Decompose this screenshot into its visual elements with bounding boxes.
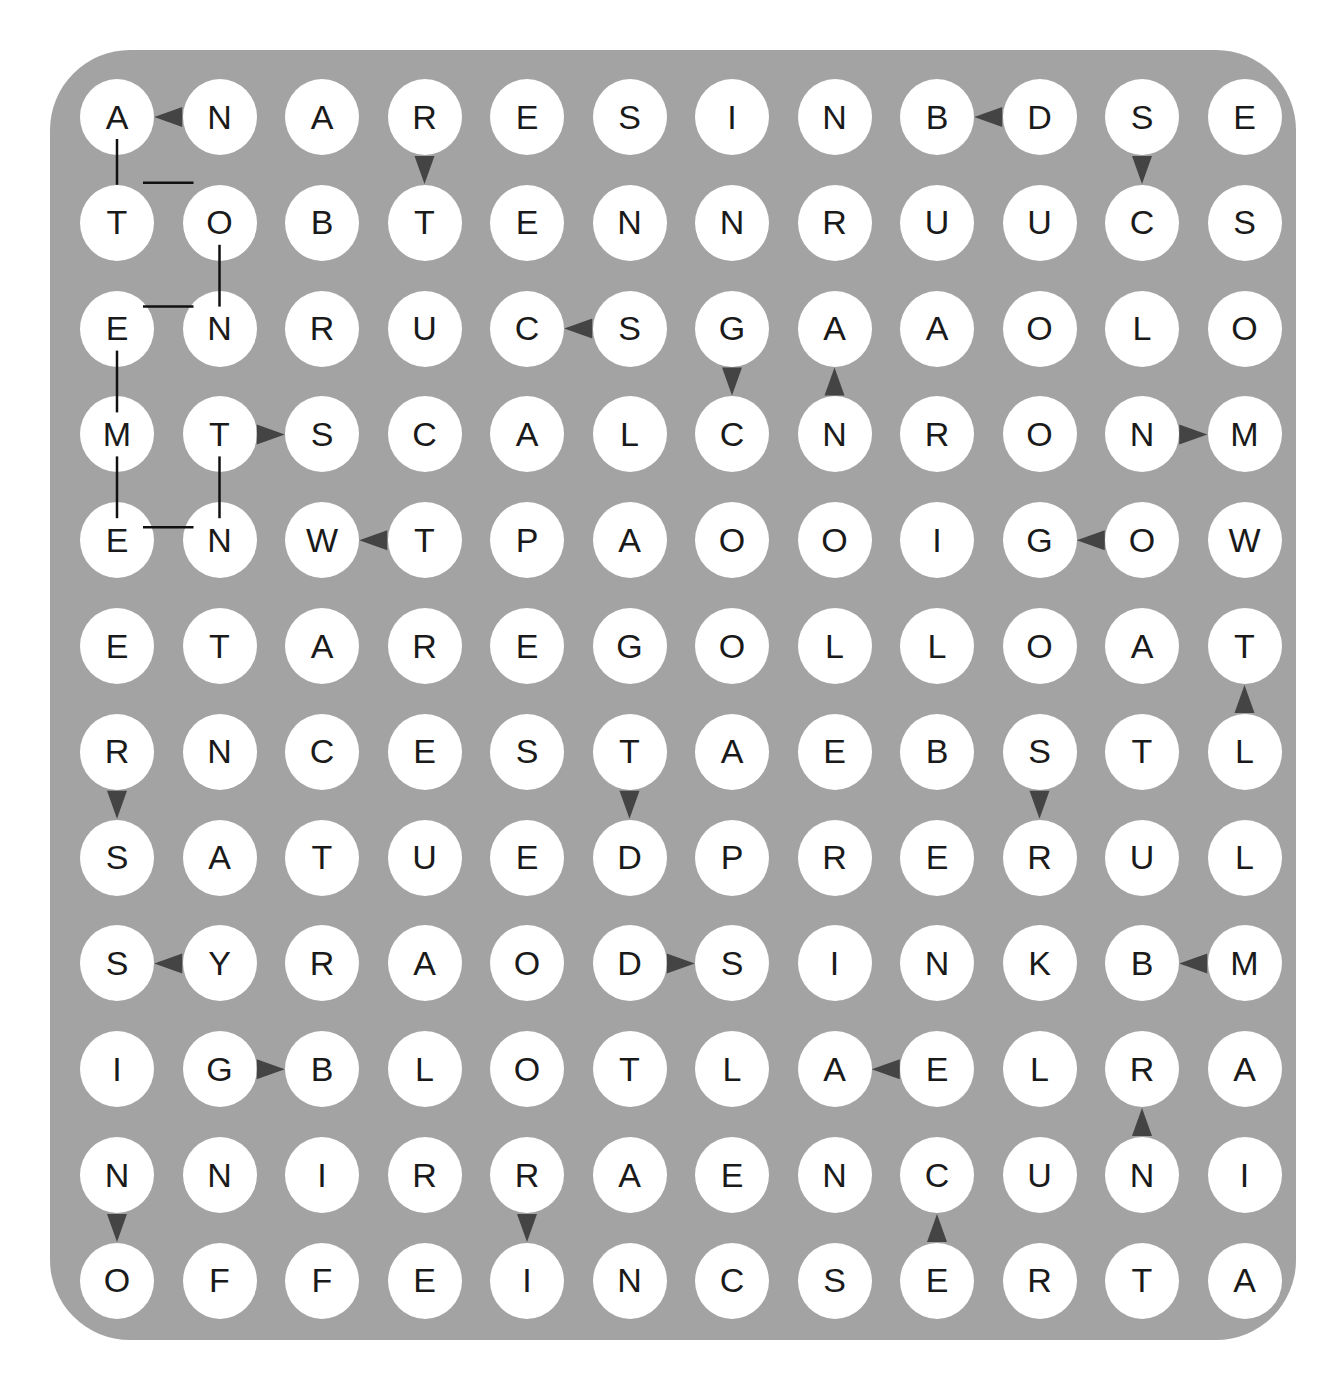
letter-cell[interactable]: N: [798, 1137, 872, 1213]
letter-cell[interactable]: O: [695, 502, 769, 578]
letter-cell[interactable]: C: [695, 396, 769, 472]
letter-cell[interactable]: F: [183, 1243, 257, 1319]
letter-cell[interactable]: L: [900, 608, 974, 684]
letter-cell[interactable]: E: [900, 820, 974, 896]
letter-cell[interactable]: S: [80, 820, 154, 896]
letter-cell[interactable]: E: [900, 1031, 974, 1107]
letter-cell[interactable]: A: [80, 79, 154, 155]
letter-cell[interactable]: O: [1208, 291, 1282, 367]
letter-cell[interactable]: C: [285, 714, 359, 790]
letter-cell[interactable]: T: [1105, 714, 1179, 790]
letter-cell[interactable]: C: [900, 1137, 974, 1213]
letter-cell[interactable]: A: [388, 925, 462, 1001]
letter-cell[interactable]: R: [285, 291, 359, 367]
letter-cell[interactable]: S: [593, 79, 667, 155]
letter-cell[interactable]: G: [1003, 502, 1077, 578]
letter-cell[interactable]: C: [388, 396, 462, 472]
letter-cell[interactable]: M: [1208, 925, 1282, 1001]
letter-cell[interactable]: A: [1208, 1031, 1282, 1107]
letter-cell[interactable]: T: [80, 185, 154, 261]
letter-cell[interactable]: E: [80, 291, 154, 367]
letter-cell[interactable]: F: [285, 1243, 359, 1319]
letter-cell[interactable]: A: [798, 1031, 872, 1107]
letter-cell[interactable]: N: [183, 502, 257, 578]
letter-cell[interactable]: N: [593, 1243, 667, 1319]
letter-cell[interactable]: B: [1105, 925, 1179, 1001]
letter-cell[interactable]: N: [183, 714, 257, 790]
letter-cell[interactable]: R: [900, 396, 974, 472]
letter-cell[interactable]: E: [388, 1243, 462, 1319]
letter-cell[interactable]: O: [1105, 502, 1179, 578]
letter-cell[interactable]: G: [593, 608, 667, 684]
letter-cell[interactable]: T: [593, 714, 667, 790]
letter-cell[interactable]: S: [593, 291, 667, 367]
letter-cell[interactable]: S: [1105, 79, 1179, 155]
letter-cell[interactable]: E: [490, 79, 564, 155]
letter-cell[interactable]: T: [593, 1031, 667, 1107]
letter-cell[interactable]: I: [285, 1137, 359, 1213]
letter-cell[interactable]: L: [593, 396, 667, 472]
letter-cell[interactable]: O: [80, 1243, 154, 1319]
letter-cell[interactable]: T: [183, 396, 257, 472]
letter-cell[interactable]: M: [80, 396, 154, 472]
letter-cell[interactable]: E: [490, 608, 564, 684]
letter-cell[interactable]: I: [798, 925, 872, 1001]
letter-cell[interactable]: N: [183, 79, 257, 155]
letter-cell[interactable]: B: [900, 714, 974, 790]
letter-cell[interactable]: O: [490, 1031, 564, 1107]
letter-cell[interactable]: U: [1105, 820, 1179, 896]
letter-cell[interactable]: D: [593, 820, 667, 896]
letter-cell[interactable]: W: [1208, 502, 1282, 578]
letter-cell[interactable]: K: [1003, 925, 1077, 1001]
letter-cell[interactable]: L: [388, 1031, 462, 1107]
letter-cell[interactable]: U: [388, 820, 462, 896]
letter-cell[interactable]: S: [285, 396, 359, 472]
letter-cell[interactable]: S: [1208, 185, 1282, 261]
letter-cell[interactable]: E: [80, 502, 154, 578]
letter-cell[interactable]: S: [80, 925, 154, 1001]
letter-cell[interactable]: N: [798, 79, 872, 155]
letter-cell[interactable]: C: [695, 1243, 769, 1319]
letter-cell[interactable]: L: [798, 608, 872, 684]
letter-cell[interactable]: N: [1105, 1137, 1179, 1213]
letter-cell[interactable]: A: [900, 291, 974, 367]
letter-cell[interactable]: U: [1003, 1137, 1077, 1213]
letter-cell[interactable]: A: [593, 1137, 667, 1213]
letter-cell[interactable]: T: [388, 185, 462, 261]
letter-cell[interactable]: C: [490, 291, 564, 367]
letter-cell[interactable]: U: [1003, 185, 1077, 261]
letter-cell[interactable]: A: [183, 820, 257, 896]
letter-cell[interactable]: A: [593, 502, 667, 578]
letter-cell[interactable]: E: [490, 185, 564, 261]
letter-cell[interactable]: D: [593, 925, 667, 1001]
letter-cell[interactable]: R: [388, 1137, 462, 1213]
letter-cell[interactable]: N: [183, 291, 257, 367]
letter-cell[interactable]: R: [1003, 820, 1077, 896]
letter-cell[interactable]: W: [285, 502, 359, 578]
letter-cell[interactable]: I: [900, 502, 974, 578]
letter-cell[interactable]: M: [1208, 396, 1282, 472]
letter-cell[interactable]: E: [798, 714, 872, 790]
letter-cell[interactable]: S: [695, 925, 769, 1001]
letter-cell[interactable]: T: [183, 608, 257, 684]
letter-cell[interactable]: L: [1208, 820, 1282, 896]
letter-cell[interactable]: I: [695, 79, 769, 155]
letter-cell[interactable]: N: [798, 396, 872, 472]
letter-cell[interactable]: R: [798, 820, 872, 896]
letter-cell[interactable]: S: [490, 714, 564, 790]
letter-cell[interactable]: E: [1208, 79, 1282, 155]
letter-cell[interactable]: L: [695, 1031, 769, 1107]
letter-cell[interactable]: O: [695, 608, 769, 684]
letter-cell[interactable]: E: [80, 608, 154, 684]
letter-cell[interactable]: R: [388, 79, 462, 155]
letter-cell[interactable]: N: [593, 185, 667, 261]
letter-cell[interactable]: L: [1105, 291, 1179, 367]
letter-cell[interactable]: N: [1105, 396, 1179, 472]
letter-cell[interactable]: A: [695, 714, 769, 790]
letter-cell[interactable]: A: [490, 396, 564, 472]
letter-cell[interactable]: A: [285, 79, 359, 155]
letter-cell[interactable]: O: [490, 925, 564, 1001]
letter-cell[interactable]: E: [490, 820, 564, 896]
letter-cell[interactable]: L: [1003, 1031, 1077, 1107]
letter-cell[interactable]: T: [388, 502, 462, 578]
